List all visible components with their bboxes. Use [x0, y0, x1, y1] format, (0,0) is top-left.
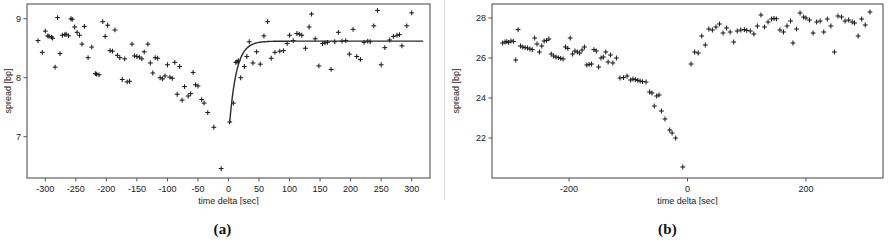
- plot-frame: [27, 4, 430, 178]
- y-tick-label: 24: [476, 93, 486, 103]
- y-tick-label: 22: [476, 133, 486, 143]
- x-tick-label: -200: [97, 184, 115, 194]
- x-tick-label: -100: [158, 184, 176, 194]
- x-tick-label: 200: [798, 184, 813, 194]
- y-axis-title: spread [bp]: [451, 68, 461, 113]
- x-tick-label: -150: [128, 184, 146, 194]
- y-tick-label: 28: [476, 13, 486, 23]
- plot-frame: [492, 4, 883, 178]
- x-tick-label: 50: [254, 184, 264, 194]
- x-tick-label: 150: [313, 184, 328, 194]
- exponential-fit-curve: [230, 41, 423, 122]
- x-axis-title: time delta [sec]: [657, 196, 718, 205]
- x-axis-title: time delta [sec]: [198, 196, 259, 205]
- x-tick-label: 300: [404, 184, 419, 194]
- x-tick-label: -200: [560, 184, 578, 194]
- x-tick-label: -50: [191, 184, 204, 194]
- data-points-group: [36, 8, 414, 171]
- x-tick-label: 0: [685, 184, 690, 194]
- data-points-group: [500, 10, 872, 170]
- y-axis-title: spread [bp]: [3, 68, 13, 113]
- y-tick-label: 7: [16, 132, 21, 142]
- figure-container: -300-250-200-150-100-5005010015020025030…: [0, 0, 890, 241]
- x-tick-label: 250: [374, 184, 389, 194]
- x-tick-label: -250: [67, 184, 85, 194]
- panel-a-plot: -300-250-200-150-100-5005010015020025030…: [0, 0, 445, 205]
- x-tick-label: 0: [226, 184, 231, 194]
- panel-a-caption: (a): [0, 221, 445, 238]
- y-tick-label: 26: [476, 53, 486, 63]
- panel-b: -200020022242628time delta [sec]spread […: [445, 0, 890, 241]
- x-tick-label: -300: [36, 184, 54, 194]
- y-tick-label: 8: [16, 73, 21, 83]
- y-tick-label: 9: [16, 14, 21, 24]
- panel-a: -300-250-200-150-100-5005010015020025030…: [0, 0, 445, 241]
- x-tick-label: 100: [282, 184, 297, 194]
- x-tick-label: 200: [343, 184, 358, 194]
- panel-b-caption: (b): [445, 221, 890, 238]
- panel-b-plot: -200020022242628time delta [sec]spread […: [445, 0, 890, 205]
